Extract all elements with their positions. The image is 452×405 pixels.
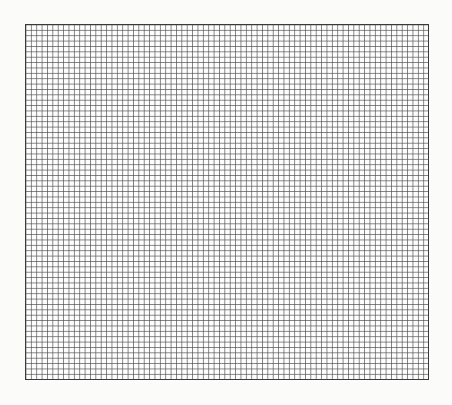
graph-paper-page	[0, 0, 452, 405]
graph-paper-grid	[25, 24, 429, 380]
